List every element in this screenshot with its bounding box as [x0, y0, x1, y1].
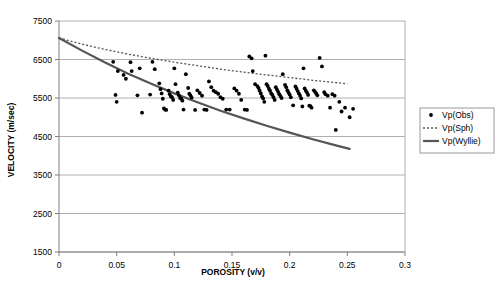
data-point	[250, 56, 254, 60]
data-point	[115, 100, 119, 104]
x-tick-label: 0.1	[168, 260, 180, 270]
data-point	[235, 89, 239, 93]
x-tick-marks	[59, 252, 405, 256]
y-tick-label: 3500	[33, 170, 52, 180]
y-tick-label: 2500	[33, 209, 52, 219]
data-point	[221, 97, 225, 101]
data-point	[337, 100, 341, 104]
chart-container: 1500250035004500550065007500 00.050.10.1…	[0, 0, 498, 303]
data-point	[190, 96, 194, 100]
data-point	[273, 98, 277, 102]
data-point	[140, 111, 144, 115]
data-point	[340, 110, 344, 114]
data-point	[302, 66, 306, 70]
data-point	[136, 93, 140, 97]
scatter-plot: 1500250035004500550065007500 00.050.10.1…	[0, 0, 498, 303]
legend-marker-dot	[429, 113, 433, 117]
data-point	[184, 72, 188, 76]
data-point	[310, 106, 314, 110]
data-point	[289, 95, 293, 99]
series-scatter-vp-obs	[111, 54, 355, 132]
data-point	[281, 72, 285, 76]
data-point	[205, 108, 209, 112]
data-point	[171, 98, 175, 102]
data-point	[151, 60, 155, 64]
data-point	[153, 67, 157, 71]
data-point	[328, 106, 332, 110]
x-tick-label: 0	[57, 260, 62, 270]
data-point	[348, 115, 352, 119]
y-tick-labels: 1500250035004500550065007500	[33, 16, 52, 257]
data-point	[160, 91, 164, 95]
data-point	[239, 98, 243, 102]
data-point	[207, 80, 211, 84]
y-tick-label: 1500	[33, 247, 52, 257]
y-tick-label: 5500	[33, 93, 52, 103]
data-point	[111, 60, 115, 64]
data-point	[280, 96, 284, 100]
data-point	[320, 65, 324, 69]
data-point	[261, 96, 265, 100]
legend-label: Vp(Obs)	[442, 110, 474, 120]
data-point	[122, 73, 126, 77]
data-point	[159, 87, 163, 91]
data-point	[200, 94, 204, 98]
data-point	[300, 105, 304, 109]
data-point	[181, 99, 185, 103]
legend-label: Vp(Wyllie)	[442, 136, 481, 146]
y-tick-label: 7500	[33, 16, 52, 26]
data-point	[167, 89, 171, 93]
data-point	[193, 108, 197, 112]
y-tick-label: 6500	[33, 55, 52, 65]
data-point	[129, 60, 133, 64]
data-point	[306, 93, 310, 97]
legend: Vp(Obs)Vp(Sph)Vp(Wyllie)	[420, 108, 494, 153]
data-point	[209, 85, 213, 89]
data-point	[245, 108, 249, 112]
data-point	[291, 103, 295, 107]
data-point	[148, 93, 152, 97]
data-point	[216, 92, 220, 96]
data-point	[124, 77, 128, 81]
data-point	[251, 69, 255, 73]
legend-label: Vp(Sph)	[442, 123, 473, 133]
data-point	[326, 94, 330, 98]
data-point	[114, 93, 118, 97]
data-point	[130, 69, 134, 73]
data-point	[182, 108, 186, 112]
x-tick-label: 0.3	[399, 260, 411, 270]
x-axis-title: POROSITY (v/v)	[201, 267, 265, 277]
data-point	[299, 96, 303, 100]
gridlines	[59, 21, 405, 252]
data-point	[164, 108, 168, 112]
x-tick-label: 0.2	[284, 260, 296, 270]
data-point	[157, 81, 161, 85]
data-point	[174, 82, 178, 86]
x-tick-label: 0.05	[108, 260, 125, 270]
x-tick-label: 0.25	[339, 260, 356, 270]
y-tick-label: 4500	[33, 132, 52, 142]
data-point	[116, 69, 120, 73]
y-tick-marks	[55, 21, 59, 252]
data-point	[334, 128, 338, 132]
data-point	[186, 86, 190, 90]
data-point	[237, 92, 241, 96]
data-point	[172, 66, 176, 70]
data-point	[333, 94, 337, 98]
data-point	[318, 56, 322, 60]
data-point	[228, 108, 232, 112]
y-axis-title: VELOCITY (m/sec)	[6, 103, 16, 178]
data-point	[264, 54, 268, 58]
data-point	[262, 100, 266, 104]
data-point	[343, 106, 347, 110]
data-point	[161, 97, 165, 101]
data-point	[351, 107, 355, 111]
data-point	[138, 66, 142, 70]
data-point	[224, 108, 228, 112]
data-point	[315, 93, 319, 97]
